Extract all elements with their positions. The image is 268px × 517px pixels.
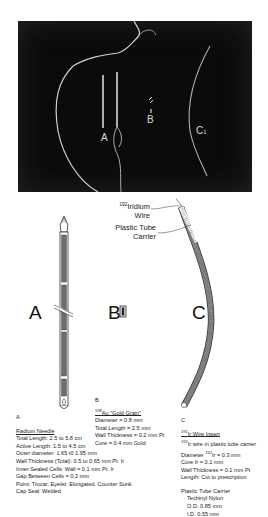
spec-line: Outer diameter: 1.65 t0 1.95 mm [16, 450, 132, 458]
photo-label-a: A [101, 132, 108, 143]
spec-line: Wall Thickness = 0.1 mm Pt [181, 467, 256, 475]
photo-label-b: B [147, 114, 154, 125]
callout-iridium-wire: 192Iridium Wire [110, 199, 150, 220]
spec-line: Length: Cut to prescription [181, 474, 256, 482]
photo-label-c1: C1 [196, 125, 207, 136]
spec-line: Wall Thickness (Total): 0.5 to 0.65 mm P… [16, 458, 132, 466]
spec-line: Inner Sealed Cells: Wall = 0.1 mm Pt. Ir [16, 466, 132, 474]
radiograph-drawing [18, 21, 252, 192]
spec-c-subtitle: 192Ir wire in plastic tube carrier [181, 438, 256, 448]
spec-line: Gap Between Cells = 0.2 mm [16, 473, 132, 481]
spec-line: Cap Seal: Welded [16, 488, 132, 496]
spec-line: Point: Trocar. Eyelet: Elongated. Counte… [16, 481, 132, 489]
spec-line: Core Ir = 0.1 mm [181, 459, 256, 467]
radium-needle-drawing [54, 216, 73, 409]
spec-line: O.D. 0.85 mm [181, 503, 256, 511]
spec-c-diameter: Diameter 192Ir = 0.3 mm [181, 449, 256, 459]
spec-c-title: 192Ir Wire Insert [181, 428, 256, 438]
implant-diagram: A B C 192Iridium Wire Plastic Tube Carri… [0, 195, 268, 415]
spec-line: Total Length = 2.5 mm [95, 425, 164, 433]
diagram-label-c: C [192, 302, 206, 324]
spec-c-letter: C [181, 417, 256, 425]
diagram-label-a: A [29, 302, 42, 324]
spec-line: Diameter = 0.8 mm [95, 417, 164, 425]
spec-line: Techinyl Nylon [181, 495, 256, 503]
spec-line: I.D. 0.55 mm [181, 511, 256, 517]
radiograph-photo: A B C1 [18, 21, 252, 192]
spec-line: Core = 0.4 mm Gold [95, 440, 164, 448]
spec-b-title: 198Au "Gold Grain" [95, 407, 164, 417]
spec-c-carrier-title: Plastic Tube Carrier [181, 488, 256, 496]
diagram-label-b: B [108, 302, 121, 324]
spec-block-gold-grain: B 198Au "Gold Grain" Diameter = 0.8 mm T… [95, 397, 164, 447]
spec-line: Wall Thickness = 0.2 mm Pt [95, 432, 164, 440]
spec-b-letter: B [95, 397, 164, 405]
spec-block-iridium-wire: C 192Ir Wire Insert 192Ir wire in plasti… [181, 417, 256, 517]
callout-plastic-tube: Plastic Tube Carrier [108, 223, 156, 241]
